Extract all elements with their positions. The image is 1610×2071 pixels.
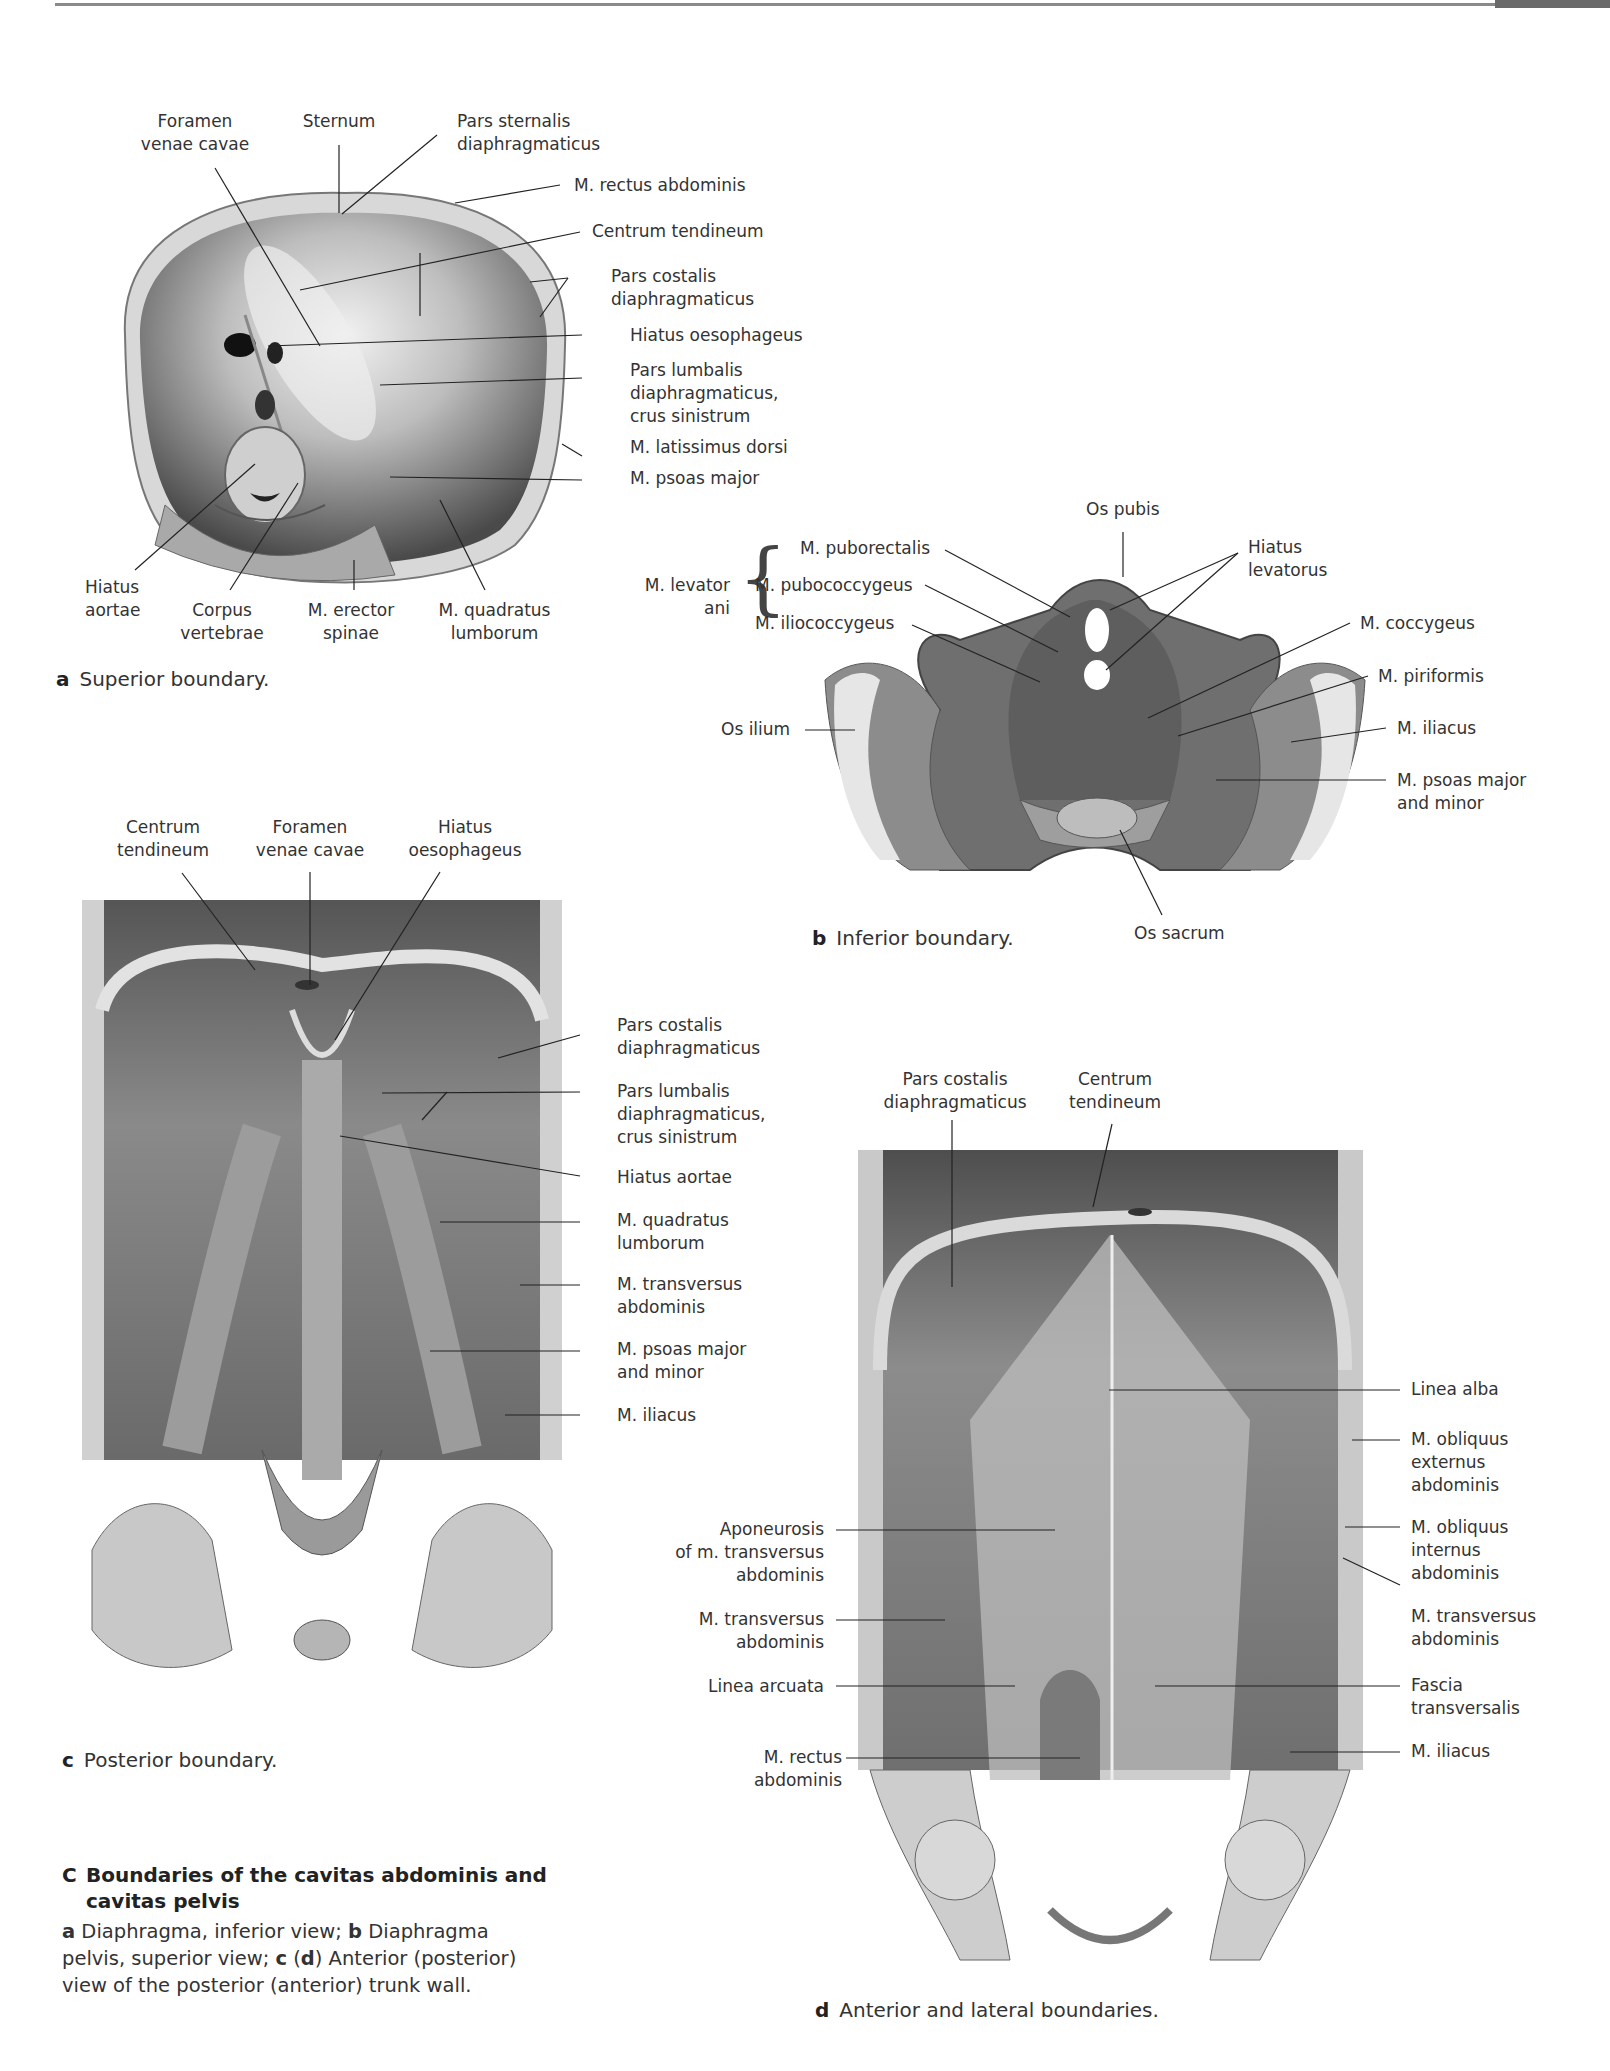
pelvic-floor-superior-illustration <box>820 570 1370 890</box>
diaphragm-superior-illustration <box>95 175 595 595</box>
label-iliacus-c: M. iliacus <box>617 1404 696 1427</box>
label-puborectalis: M. puborectalis <box>800 537 930 560</box>
label-quadratus-lumborum: M. quadratuslumborum <box>432 599 557 645</box>
label-psoas-major: M. psoas major <box>630 467 759 490</box>
label-centrum-tendineum-d: Centrumtendineum <box>1065 1068 1165 1114</box>
label-aponeurosis: Aponeurosisof m. transversusabdominis <box>656 1518 824 1587</box>
label-erector-spinae: M. erectorspinae <box>296 599 406 645</box>
label-corpus-vertebrae: Corpusvertebrae <box>172 599 272 645</box>
label-pars-costalis: Pars costalisdiaphragmaticus <box>611 265 754 311</box>
label-pubococcygeus: M. pubococcygeus <box>755 574 913 597</box>
label-sternum: Sternum <box>296 110 382 133</box>
caption-b: bInferior boundary. <box>812 926 1014 950</box>
label-piriformis: M. piriformis <box>1378 665 1484 688</box>
header-tab-marker <box>1495 0 1610 8</box>
label-fascia-transversalis: Fasciatransversalis <box>1411 1674 1520 1720</box>
label-transversus-abdominis-d-left: M. transversusabdominis <box>656 1608 824 1654</box>
label-os-ilium: Os ilium <box>721 718 790 741</box>
caption-d: dAnterior and lateral boundaries. <box>815 1998 1159 2022</box>
label-hiatus-aortae-c: Hiatus aortae <box>617 1166 732 1189</box>
label-transversus-abdominis-d-right: M. transversusabdominis <box>1411 1605 1536 1651</box>
label-obliquus-externus: M. obliquusexternusabdominis <box>1411 1428 1508 1497</box>
label-os-pubis: Os pubis <box>1086 498 1160 521</box>
label-iliacus-b: M. iliacus <box>1397 717 1476 740</box>
figure-description: a Diaphragma, inferior view; b Diaphragm… <box>62 1918 532 1999</box>
caption-c: cPosterior boundary. <box>62 1748 277 1772</box>
anterior-trunk-wall-illustration <box>850 1140 1370 1980</box>
label-obliquus-internus: M. obliquusinternusabdominis <box>1411 1516 1508 1585</box>
label-foramen-venae-cavae: Foramenvenae cavae <box>140 110 250 156</box>
label-coccygeus: M. coccygeus <box>1360 612 1475 635</box>
label-levator-ani: M. levatorani <box>630 574 730 620</box>
figure-title: CBoundaries of the cavitas abdominis and… <box>62 1862 547 1914</box>
header-rule <box>55 3 1495 6</box>
label-rectus-abdominis-d: M. rectusabdominis <box>656 1746 842 1792</box>
label-pars-costalis-c: Pars costalisdiaphragmaticus <box>617 1014 760 1060</box>
label-hiatus-aortae: Hiatusaortae <box>85 576 140 622</box>
label-centrum-tendineum: Centrum tendineum <box>592 220 763 243</box>
label-centrum-tendineum-c: Centrumtendineum <box>108 816 218 862</box>
label-hiatus-oesophageus: Hiatus oesophageus <box>630 324 803 347</box>
label-foramen-venae-cavae-c: Foramenvenae cavae <box>250 816 370 862</box>
label-transversus-abdominis-c: M. transversusabdominis <box>617 1273 742 1319</box>
label-iliococcygeus: M. iliococcygeus <box>755 612 894 635</box>
label-hiatus-levatorus: Hiatuslevatorus <box>1248 536 1327 582</box>
label-psoas-major-minor-b: M. psoas majorand minor <box>1397 769 1526 815</box>
label-pars-lumbalis-c: Pars lumbalisdiaphragmaticus,crus sinist… <box>617 1080 765 1149</box>
label-latissimus-dorsi: M. latissimus dorsi <box>630 436 788 459</box>
caption-a: aSuperior boundary. <box>56 667 269 691</box>
label-pars-sternalis: Pars sternalisdiaphragmaticus <box>457 110 600 156</box>
label-pars-lumbalis: Pars lumbalisdiaphragmaticus,crus sinist… <box>630 359 778 428</box>
label-os-sacrum: Os sacrum <box>1134 922 1225 945</box>
label-pars-costalis-d: Pars costalisdiaphragmaticus <box>875 1068 1035 1114</box>
label-iliacus-d: M. iliacus <box>1411 1740 1490 1763</box>
posterior-trunk-wall-illustration <box>62 890 582 1690</box>
label-linea-alba: Linea alba <box>1411 1378 1499 1401</box>
label-psoas-major-minor-c: M. psoas majorand minor <box>617 1338 746 1384</box>
label-hiatus-oesophageus-c: Hiatusoesophageus <box>400 816 530 862</box>
label-quadratus-lumborum-c: M. quadratuslumborum <box>617 1209 729 1255</box>
label-linea-arcuata: Linea arcuata <box>656 1675 824 1698</box>
label-rectus-abdominis: M. rectus abdominis <box>574 174 746 197</box>
